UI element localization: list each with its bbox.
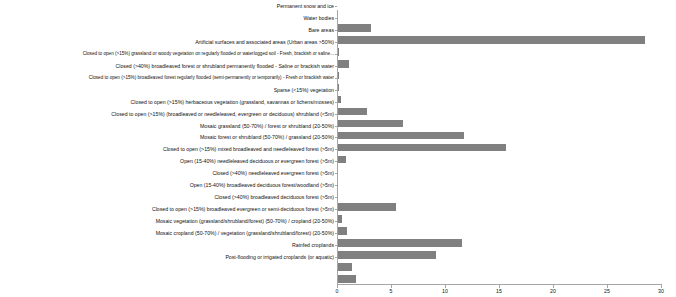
category-label: Open (15-40%) broadleaved deciduous fore… [190,182,337,188]
category-row: Closed to open (>15%) herbaceous vegetat… [0,96,337,108]
bar [338,239,462,247]
category-label: Mosaic vegetation (grassland/shrubland/f… [156,218,337,224]
bar [338,215,342,223]
bar [338,60,349,68]
category-label: Water bodies [304,15,338,21]
category-label: Closed to open (>15%) broadleaved evergr… [152,206,337,212]
x-axis-tick-label: 30 [658,288,664,295]
category-row: Closed (>40%) broadleaved deciduous fore… [0,191,337,203]
bar [338,275,356,283]
bar [338,263,352,271]
y-axis-tick [335,6,337,7]
bar [338,251,436,259]
bar-row [338,273,662,285]
bar [338,96,341,104]
bar [338,227,347,235]
bar [338,72,339,80]
bar-row [338,249,662,261]
bars-plot-area [338,10,662,285]
category-row: Closed to open (>15%) broadleaved forest… [0,72,337,84]
bar-row [338,189,662,201]
bar [338,108,367,116]
x-axis-tick-label: 15 [496,288,502,295]
bar-row [338,10,662,22]
category-row: Closed (>40%) needleleaved evergreen for… [0,167,337,179]
category-row: Open (15-40%) broadleaved deciduous fore… [0,179,337,191]
bar-row [338,177,662,189]
category-label: Mosaic cropland (50-70%) / vegetation (g… [156,230,337,236]
bar-row [338,225,662,237]
category-label: Closed to open (>15%) grassland or woody… [83,51,337,57]
category-row: Rainfed croplands [0,239,337,251]
category-row: Open (15-40%) needleleaved deciduous or … [0,155,337,167]
bar-row [338,70,662,82]
category-row: Water bodies [0,12,337,24]
category-row: Closed to open (>15%) grassland or woody… [0,48,337,60]
category-row: Closed to open (>15%) mixed broadleaved … [0,143,337,155]
category-row: Mosaic forest or shrubland (50-70%) / gr… [0,131,337,143]
category-label: Closed (>40%) needleleaved evergreen for… [212,170,337,176]
category-label: Closed (>40%) broadleaved forest or shru… [116,63,337,69]
bar-row [338,46,662,58]
bar-row [338,94,662,106]
category-row: Bare areas [0,24,337,36]
x-axis-ticks: 051015202530 [337,285,662,297]
bar [338,203,396,211]
category-row: Mosaic vegetation (grassland/shrubland/f… [0,215,337,227]
category-row: Closed to open (>15%) broadleaved evergr… [0,203,337,215]
bar-row [338,118,662,130]
bar [338,84,339,92]
bar-row [338,153,662,165]
category-label: Mosaic grassland (50-70%) / forest or sh… [200,123,337,129]
bar-row [338,141,662,153]
category-row: Sparse (<15%) vegetation [0,84,337,96]
bar-row [338,165,662,177]
bar [338,24,371,32]
category-row: Mosaic grassland (50-70%) / forest or sh… [0,120,337,132]
bar-row [338,130,662,142]
category-label-column: Permanent snow and iceWater bodiesBare a… [0,0,337,275]
x-axis-tick-label: 5 [390,288,393,295]
bar-row [338,58,662,70]
category-label: Permanent snow and ice [277,3,337,9]
category-row: Artificial surfaces and associated areas… [0,36,337,48]
category-label: Mosaic forest or shrubland (50-70%) / gr… [200,134,337,140]
category-label: Post-flooding or irrigated croplands (or… [225,254,337,260]
bar [338,36,645,44]
category-label: Open (15-40%) needleleaved deciduous or … [180,158,337,164]
category-label: Sparse (<15%) vegetation [274,87,337,93]
bar-row [338,22,662,34]
bar-row [338,261,662,273]
category-row: Closed (>40%) broadleaved forest or shru… [0,60,337,72]
x-axis-tick-label: 0 [336,288,339,295]
bar [338,144,506,152]
x-axis-tick-label: 25 [604,288,610,295]
bar [338,48,339,56]
category-label: Closed (>40%) broadleaved deciduous fore… [214,194,337,200]
bar [338,132,464,140]
category-label: Closed to open (>15%) (broadleaved or ne… [111,111,337,117]
category-label: Closed to open (>15%) broadleaved forest… [89,75,337,81]
bar-row [338,82,662,94]
category-row: Permanent snow and ice [0,0,337,12]
x-axis-tick-label: 10 [442,288,448,295]
category-row: Closed to open (>15%) (broadleaved or ne… [0,108,337,120]
bar [338,156,346,164]
category-label: Rainfed croplands [292,242,337,248]
bar-row [338,213,662,225]
bar-row [338,106,662,118]
bar-row [338,201,662,213]
category-label: Closed to open (>15%) herbaceous vegetat… [131,99,337,105]
x-axis-tick-label: 20 [550,288,556,295]
bar-row [338,237,662,249]
category-label: Closed to open (>15%) mixed broadleaved … [163,146,337,152]
bar [338,120,403,128]
bar-chart: Permanent snow and iceWater bodiesBare a… [0,0,676,297]
category-label: Artificial surfaces and associated areas… [195,39,337,45]
category-row: Post-flooding or irrigated croplands (or… [0,251,337,263]
category-label: Bare areas [309,27,337,33]
category-row: Mosaic cropland (50-70%) / vegetation (g… [0,227,337,239]
bar-row [338,34,662,46]
